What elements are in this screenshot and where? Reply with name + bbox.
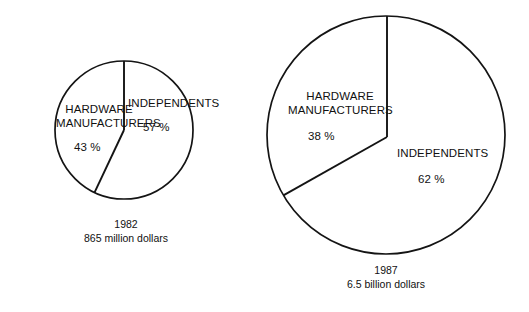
pie-1982-caption-amount: 865 million dollars <box>66 232 186 246</box>
pie-1987-independents-label: INDEPENDENTS <box>397 147 488 161</box>
pie-1987-outline <box>267 16 505 254</box>
pie-1982-hardware-percent: 43 % <box>74 141 101 155</box>
pie-1987-independents-percent: 62 % <box>418 173 445 187</box>
pie-1987-hardware-label: HARDWARE MANUFACTURERS <box>288 90 392 117</box>
pie-1987-caption: 1987 6.5 billion dollars <box>326 264 446 291</box>
pie-1982-independents-percent: 57 % <box>143 121 170 135</box>
pie-1987-caption-year: 1987 <box>326 264 446 278</box>
pie-1982-independents-label: INDEPENDENTS <box>128 97 219 111</box>
pie-1987-hardware-label-line2: MANUFACTURERS <box>288 104 393 116</box>
pie-1987-caption-amount: 6.5 billion dollars <box>326 278 446 292</box>
pie-charts-figure: HARDWARE MANUFACTURERS 43 % INDEPENDENTS… <box>0 0 529 312</box>
pie-1982-caption-year: 1982 <box>66 218 186 232</box>
pie-1987-hardware-percent: 38 % <box>308 130 335 144</box>
pie-1982-hardware-label-line1: HARDWARE <box>65 103 132 115</box>
pie-1982-caption: 1982 865 million dollars <box>66 218 186 245</box>
pie-1987-hardware-label-line1: HARDWARE <box>306 90 373 102</box>
